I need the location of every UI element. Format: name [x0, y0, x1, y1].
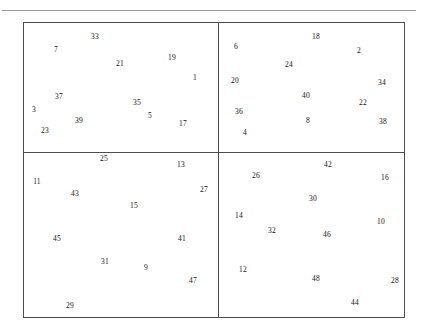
point-label: 6 [234, 43, 238, 51]
point-label: 10 [377, 218, 385, 226]
point-label: 23 [41, 127, 49, 135]
point-label: 45 [53, 235, 61, 243]
point-label: 26 [252, 172, 260, 180]
point-label: 28 [391, 277, 399, 285]
point-label: 7 [54, 46, 58, 54]
point-label: 40 [302, 92, 310, 100]
point-label: 15 [130, 202, 138, 210]
point-label: 24 [285, 61, 293, 69]
point-label: 43 [71, 190, 79, 198]
point-label: 46 [323, 231, 331, 239]
point-label: 33 [91, 33, 99, 41]
panel-divider-horizontal [23, 152, 405, 153]
figure-page: 3372119137353539172318622420344022368384… [0, 0, 426, 336]
point-label: 4 [243, 129, 247, 137]
point-label: 11 [33, 178, 41, 186]
point-label: 35 [133, 99, 141, 107]
point-label: 41 [178, 235, 186, 243]
point-label: 44 [351, 299, 359, 307]
point-label: 3 [32, 106, 36, 114]
point-label: 39 [75, 117, 83, 125]
point-label: 22 [359, 99, 367, 107]
point-label: 19 [168, 54, 176, 62]
figure-outer-frame [23, 22, 405, 318]
point-label: 29 [66, 302, 74, 310]
point-label: 17 [179, 120, 187, 128]
point-label: 21 [116, 60, 124, 68]
point-label: 32 [268, 227, 276, 235]
point-label: 14 [235, 212, 243, 220]
panel-divider-vertical [218, 22, 219, 318]
point-label: 8 [306, 117, 310, 125]
point-label: 38 [379, 118, 387, 126]
point-label: 9 [144, 264, 148, 272]
point-label: 13 [177, 161, 185, 169]
point-label: 12 [239, 266, 247, 274]
point-label: 42 [324, 161, 332, 169]
top-horizontal-rule [2, 10, 416, 11]
point-label: 1 [193, 74, 197, 82]
point-label: 47 [189, 277, 197, 285]
point-label: 34 [378, 79, 386, 87]
point-label: 20 [231, 77, 239, 85]
point-label: 36 [235, 108, 243, 116]
point-label: 48 [312, 275, 320, 283]
point-label: 16 [381, 174, 389, 182]
point-label: 37 [55, 93, 63, 101]
point-label: 27 [200, 186, 208, 194]
point-label: 5 [148, 112, 152, 120]
point-label: 2 [357, 47, 361, 55]
point-label: 31 [101, 258, 109, 266]
point-label: 30 [309, 195, 317, 203]
point-label: 18 [312, 33, 320, 41]
point-label: 25 [100, 155, 108, 163]
